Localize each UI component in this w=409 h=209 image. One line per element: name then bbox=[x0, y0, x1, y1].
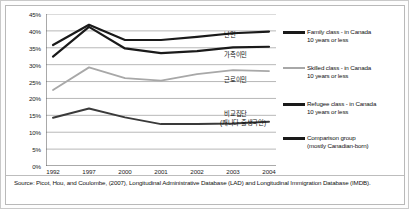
source-divider bbox=[6, 175, 404, 176]
legend-item-label: Family class - in Canada 10 years or les… bbox=[307, 28, 371, 43]
legend-item[interactable]: Family class - in Canada 10 years or les… bbox=[283, 28, 371, 43]
x-axis-tick-label: 2002 bbox=[190, 168, 203, 175]
legend-color-swatch bbox=[283, 29, 305, 36]
y-axis-tick-label: 10% bbox=[29, 129, 41, 136]
y-axis: 45%40%35%30%25%20%15%10%5%0% bbox=[6, 14, 44, 166]
legend-color-swatch bbox=[283, 135, 305, 142]
x-axis-tick-label: 2001 bbox=[154, 168, 167, 175]
chart-frame: 45%40%35%30%25%20%15%10%5%0% 19921997200… bbox=[5, 5, 405, 205]
legend-color-swatch bbox=[283, 101, 305, 108]
legend-item[interactable]: Skilled class - in Canada 10 years or le… bbox=[283, 64, 371, 79]
series-callout-label: 난민 bbox=[224, 31, 236, 39]
y-axis-tick-label: 15% bbox=[29, 112, 41, 119]
figure-container: 45%40%35%30%25%20%15%10%5%0% 19921997200… bbox=[0, 0, 409, 209]
legend-item-label: Refugee class - in Canada 10 years or le… bbox=[307, 100, 376, 115]
y-axis-tick-label: 40% bbox=[29, 27, 41, 34]
y-axis-tick-label: 20% bbox=[29, 95, 41, 102]
series-callout-label: 가족이민 bbox=[224, 51, 247, 59]
y-axis-tick-label: 0% bbox=[32, 163, 41, 170]
chart-svg bbox=[46, 14, 276, 166]
y-axis-tick-label: 30% bbox=[29, 61, 41, 68]
legend-item[interactable]: Refugee class - in Canada 10 years or le… bbox=[283, 100, 376, 115]
y-axis-tick-label: 5% bbox=[32, 146, 41, 153]
y-axis-tick-label: 45% bbox=[29, 11, 41, 18]
x-axis-tick-label: 2000 bbox=[118, 168, 131, 175]
plot-area bbox=[46, 14, 276, 166]
x-axis-tick-label: 1992 bbox=[46, 168, 59, 175]
series-callout-label: 비교집단 bbox=[224, 110, 247, 118]
legend-item[interactable]: Comparison group (mostly Canadian-born) bbox=[283, 134, 368, 149]
x-axis-tick-label: 2003 bbox=[226, 168, 239, 175]
source-note: Source: Picot, Hou, and Coulombe, (2007)… bbox=[14, 179, 402, 187]
x-axis-tick-label: 1997 bbox=[82, 168, 95, 175]
y-axis-tick-label: 35% bbox=[29, 44, 41, 51]
x-axis-tick-label: 2004 bbox=[262, 168, 275, 175]
legend-item-label: Skilled class - in Canada 10 years or le… bbox=[307, 64, 371, 79]
series-callout-label: 근로이민 bbox=[224, 76, 247, 84]
chart-legend: Family class - in Canada 10 years or les… bbox=[283, 16, 407, 166]
y-axis-tick-label: 25% bbox=[29, 78, 41, 85]
series-line bbox=[53, 25, 269, 45]
legend-color-swatch bbox=[283, 65, 305, 72]
legend-item-label: Comparison group (mostly Canadian-born) bbox=[307, 134, 368, 149]
series-callout-label: (캐나다 출생국인) bbox=[220, 119, 266, 127]
